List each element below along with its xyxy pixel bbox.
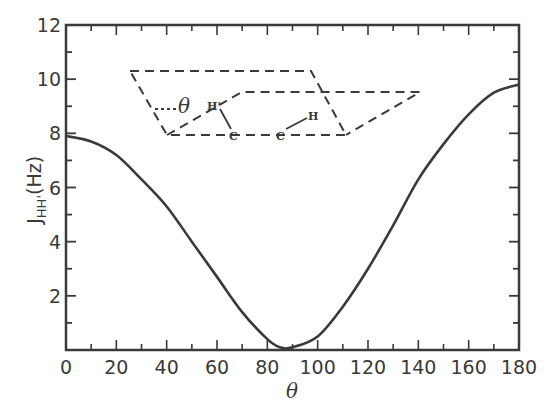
y-tick-label: 8 bbox=[49, 122, 61, 144]
inset-bonds bbox=[220, 109, 307, 129]
x-tick-labels: 020406080100120140160180 bbox=[60, 356, 537, 378]
y-axis-title: JHH'(Hz) bbox=[22, 156, 49, 226]
inset-c2: C bbox=[276, 130, 285, 143]
front-plane bbox=[167, 92, 420, 135]
x-tick-label: 140 bbox=[400, 356, 436, 378]
x-tick-label: 20 bbox=[104, 356, 128, 378]
y-tick-label: 4 bbox=[49, 231, 61, 253]
x-tick-label: 80 bbox=[255, 356, 279, 378]
x-tick-label: 180 bbox=[501, 356, 537, 378]
x-tick-label: 120 bbox=[350, 356, 386, 378]
inset-h-prime: H' bbox=[207, 100, 221, 113]
x-tick-label: 0 bbox=[60, 356, 72, 378]
y-tick-label: 10 bbox=[37, 68, 61, 90]
axis-ticks bbox=[66, 25, 519, 350]
svg-text:JHH'(Hz): JHH'(Hz) bbox=[22, 156, 49, 226]
y-tick-label: 2 bbox=[49, 285, 61, 307]
inset-h: H bbox=[308, 110, 318, 123]
inset-theta-label: θ bbox=[178, 94, 190, 118]
x-tick-label: 160 bbox=[451, 356, 487, 378]
plot-frame bbox=[66, 25, 519, 350]
inset-c1: C bbox=[229, 130, 238, 143]
x-tick-label: 60 bbox=[205, 356, 229, 378]
y-tick-label: 6 bbox=[49, 177, 61, 199]
x-tick-label: 40 bbox=[155, 356, 179, 378]
back-plane bbox=[130, 71, 346, 135]
x-axis-title: θ bbox=[286, 379, 298, 403]
x-tick-label: 100 bbox=[300, 356, 336, 378]
dihedral-inset-diagram bbox=[130, 71, 420, 135]
karplus-chart: 020406080100120140160180 24681012 θ JHH'… bbox=[0, 0, 556, 412]
y-tick-label: 12 bbox=[37, 14, 61, 36]
data-curve bbox=[66, 85, 519, 349]
